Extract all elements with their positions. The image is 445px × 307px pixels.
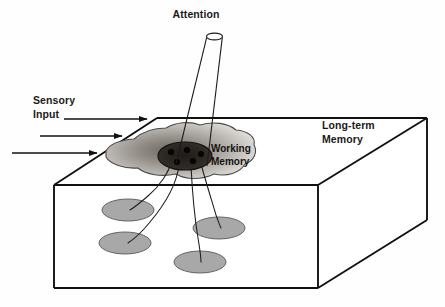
box-front-face [54,185,318,288]
focus-ellipse [158,142,212,170]
memory-trace-2 [99,232,151,254]
working-memory-label-line1: Working [211,143,251,154]
long-term-memory-label-line1: Long-term [322,119,375,131]
focus-dot-5 [190,158,196,164]
memory-trace-3 [193,217,245,239]
focus-dot-2 [184,147,190,153]
attention-label: Attention [173,8,220,20]
sensory-input-label-line1: Sensory [33,94,75,106]
memory-model-diagram: Attention Sensory Input Long-term Memory… [0,0,445,307]
attention-focus-region [158,142,212,170]
memory-trace-1 [102,199,154,221]
focus-dot-1 [168,149,174,155]
diagram-canvas: Attention Sensory Input Long-term Memory… [0,0,445,307]
working-memory-label-line2: Memory [211,156,250,167]
sensory-input-label-line2: Input [33,108,60,120]
attention-cone-top-ellipse [207,33,223,40]
long-term-memory-label-line2: Memory [322,133,363,145]
focus-dot-3 [198,151,204,157]
